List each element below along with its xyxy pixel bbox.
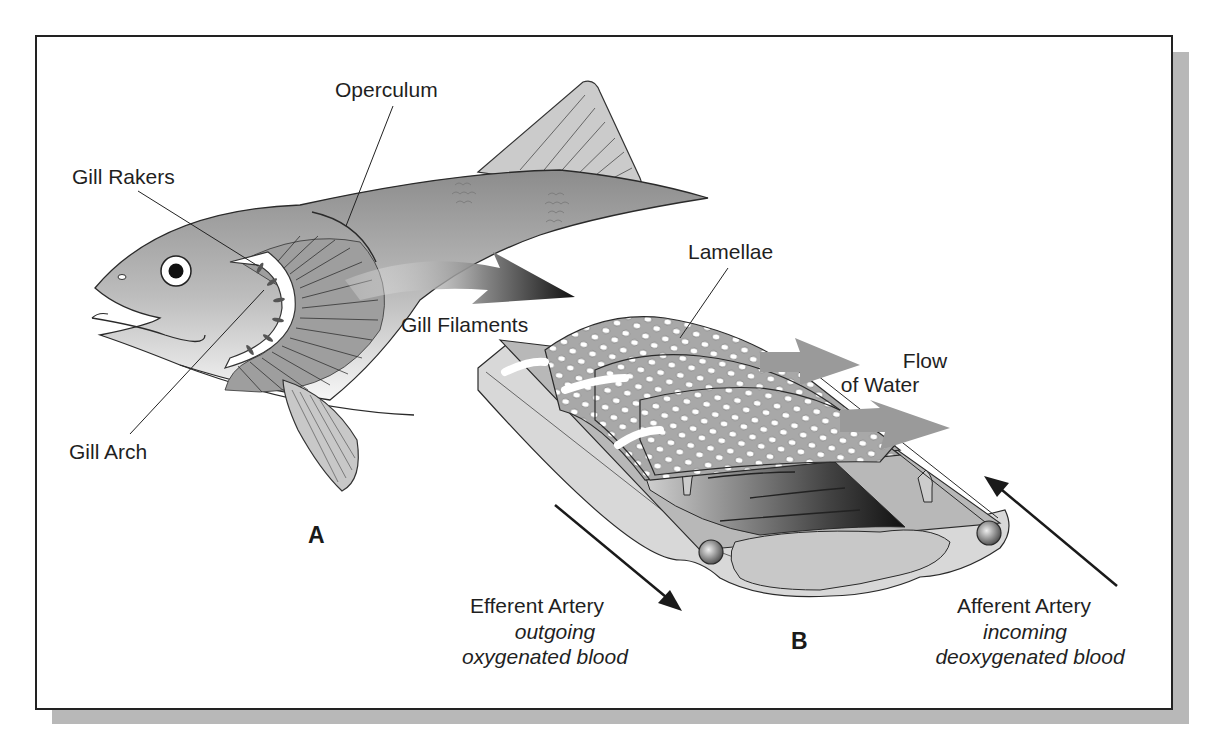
label-gill-filaments: Gill Filaments [401, 313, 528, 337]
panel-letter-a: A [308, 522, 325, 549]
afferent-artery-vessel [977, 521, 1001, 545]
label-of-water: of Water [841, 373, 920, 397]
efferent-artery-vessel [699, 540, 723, 564]
label-efferent-outgoing: outgoing [515, 620, 596, 644]
label-gill-arch: Gill Arch [69, 440, 147, 464]
label-lamellae: Lamellae [688, 240, 773, 264]
gill-anatomy-figure: Operculum Gill Rakers Gill Filaments Gil… [0, 0, 1214, 743]
label-flow: Flow [903, 349, 947, 373]
label-operculum: Operculum [335, 78, 438, 102]
label-efferent-artery: Efferent Artery [470, 594, 604, 618]
label-afferent-artery: Afferent Artery [957, 594, 1091, 618]
label-efferent-oxygenated: oxygenated blood [462, 645, 628, 669]
label-afferent-deoxygenated: deoxygenated blood [935, 645, 1124, 669]
panel-letter-b: B [791, 628, 808, 655]
label-gill-rakers: Gill Rakers [72, 165, 175, 189]
label-afferent-incoming: incoming [983, 620, 1067, 644]
